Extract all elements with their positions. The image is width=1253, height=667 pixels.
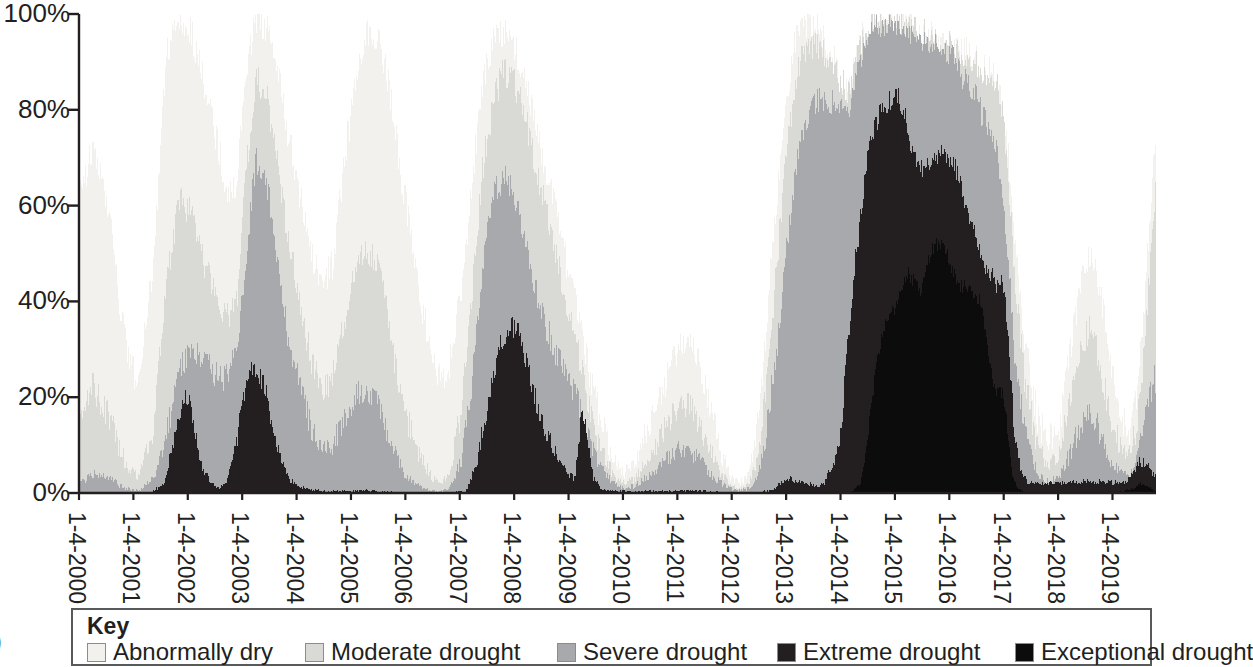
x-tick-label: 1-4-2014 (827, 512, 850, 604)
x-tick-label: 1-4-2002 (174, 512, 197, 604)
x-tick-label: 1-4-2007 (446, 512, 469, 604)
legend-swatch-icon (305, 643, 324, 662)
plot-area: 100%80%60%40%20%0% (0, 0, 1156, 500)
x-tick-label: 1-4-2010 (609, 512, 632, 604)
x-tick-label: 1-4-2013 (772, 512, 795, 604)
x-axis-labels: 1-4-20001-4-20011-4-20021-4-20031-4-2004… (0, 498, 1156, 603)
corner-glyph: ) (0, 628, 2, 655)
x-tick-label: 1-4-2017 (990, 512, 1013, 604)
x-tick-label: 1-4-2003 (228, 512, 251, 604)
x-tick-label: 1-4-2001 (119, 512, 142, 604)
legend-item-label: Exceptional drought (1041, 639, 1253, 665)
y-tick-label: 40% (18, 287, 70, 313)
legend-item[interactable]: Severe drought (557, 639, 747, 665)
legend-item[interactable]: Moderate drought (305, 639, 520, 665)
x-tick-label: 1-4-2019 (1098, 512, 1121, 604)
legend-item-label: Moderate drought (331, 639, 520, 665)
y-tick-label: 60% (18, 192, 70, 218)
x-tick-label: 1-4-2004 (283, 512, 306, 604)
legend-title: Key (87, 614, 129, 638)
legend-items: Abnormally dryModerate droughtSevere dro… (87, 639, 1144, 667)
legend-item-label: Extreme drought (803, 639, 980, 665)
x-tick-label: 1-4-2016 (935, 512, 958, 604)
x-tick-label: 1-4-2005 (337, 512, 360, 604)
legend-item-label: Severe drought (583, 639, 747, 665)
legend-item[interactable]: Abnormally dry (87, 639, 273, 665)
legend-item[interactable]: Extreme drought (777, 639, 980, 665)
x-tick-label: 1-4-2008 (500, 512, 523, 604)
y-tick-label: 20% (18, 383, 70, 409)
x-tick-label: 1-4-2015 (881, 512, 904, 604)
x-tick-label: 1-4-2012 (718, 512, 741, 604)
legend-swatch-icon (87, 643, 106, 662)
plot-svg (0, 0, 1156, 500)
x-tick-label: 1-4-2000 (65, 512, 88, 604)
y-tick-label: 80% (18, 96, 70, 122)
legend-item-label: Abnormally dry (113, 639, 273, 665)
x-tick-label: 1-4-2006 (391, 512, 414, 604)
y-tick-label: 100% (4, 0, 71, 26)
legend-swatch-icon (777, 643, 796, 662)
x-tick-label: 1-4-2009 (555, 512, 578, 604)
legend-swatch-icon (1015, 643, 1034, 662)
y-axis-labels: 100%80%60%40%20%0% (0, 0, 70, 500)
x-tick-label: 1-4-2011 (663, 512, 686, 602)
legend-item[interactable]: Exceptional drought (1015, 639, 1253, 665)
legend-swatch-icon (557, 643, 576, 662)
legend: Key Abnormally dryModerate droughtSevere… (71, 608, 1152, 666)
x-tick-label: 1-4-2018 (1044, 512, 1067, 604)
